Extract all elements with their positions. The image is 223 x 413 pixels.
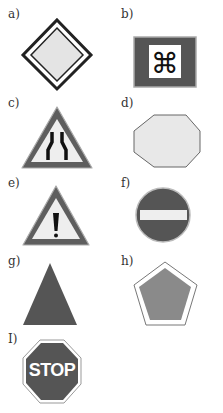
road-narrows-icon (22, 107, 92, 168)
blank-octagon-icon (134, 115, 200, 167)
no-entry-icon (136, 188, 190, 242)
stop-sign-text: STOP (23, 359, 81, 381)
pentagon-icon (134, 262, 197, 325)
exclamation-warning-icon (23, 186, 89, 245)
priority-diamond-icon (23, 20, 91, 89)
dark-triangle-icon (23, 263, 77, 325)
signs-canvas: ⌘ (0, 0, 223, 413)
svg-text:⌘: ⌘ (151, 47, 179, 80)
command-sign-icon: ⌘ (134, 37, 196, 87)
